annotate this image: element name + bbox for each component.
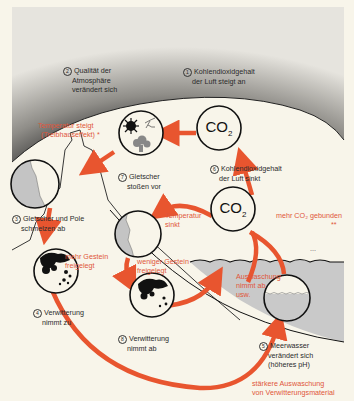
step-5-label: 5Meerwasser verändert sich (höheres pH): [259, 341, 313, 369]
step-3-label: 3Gletscher und Pole schmelzen ab: [12, 214, 84, 233]
temperature-rises-label: Temperatur steigt (Treibhauseffekt) *: [38, 121, 100, 139]
step-1-label: 1Kohlendioxidgehalt der Luft steigt an: [183, 67, 255, 86]
less-rock-exposed-label: weniger Gestein freigelegt: [137, 257, 189, 275]
more-rock-exposed-label: mehr Gestein freigelegt: [65, 252, 108, 270]
step-8-label: 8Verwitterung nimmt ab: [118, 334, 169, 353]
stronger-leaching-label: stärkere Auswaschung von Verwitterungsma…: [252, 379, 335, 397]
step-4-label: 4Verwitterung nimmt zu: [33, 308, 84, 327]
step-7-label: 7Gletscher stoßen vor: [118, 172, 161, 191]
sun-icon: [123, 118, 139, 134]
ellipsis-mark: ...: [310, 244, 316, 253]
co2-top-label: CO2: [199, 118, 239, 138]
step-2-label: 2Qualität der Atmosphäre verändert sich: [63, 66, 117, 94]
temperature-falls-label: Temperatur sinkt: [165, 211, 201, 229]
co2-middle-label: CO2: [213, 199, 253, 219]
more-co2-bound-label: mehr CO₂ gebunden **: [276, 211, 342, 229]
weathering-decrease-circle: [130, 273, 174, 317]
leaching-decreases-label: Auswaschung nimmt ab usw.: [236, 272, 281, 299]
atmosphere-circle: [119, 111, 163, 155]
step-6-label: 6Kohlendioxidgehalt der Luft sinkt: [210, 164, 282, 183]
